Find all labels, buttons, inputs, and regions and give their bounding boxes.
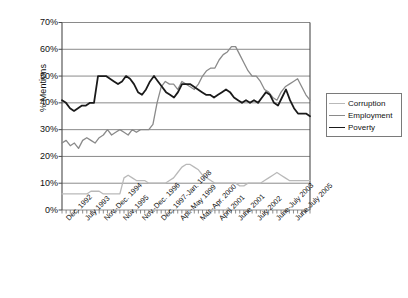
legend-item: Poverty — [329, 121, 398, 133]
legend-label: Employment — [348, 111, 392, 120]
legend-color-swatch — [329, 127, 345, 128]
legend-item: Employment — [329, 109, 398, 121]
legend-color-swatch — [329, 115, 345, 116]
legend-item: Corruption — [329, 97, 398, 109]
x-axis-tick-labels: Dec. 1992July 1993Nov.-Dec. 1994Nov. 199… — [0, 0, 408, 298]
chart-legend: CorruptionEmploymentPoverty — [326, 93, 402, 137]
chart-container: % Mentions 0%10%20%30%40%50%60%70% Dec. … — [0, 0, 408, 298]
legend-color-swatch — [329, 103, 345, 104]
legend-label: Poverty — [348, 123, 375, 132]
legend-label: Corruption — [348, 99, 385, 108]
